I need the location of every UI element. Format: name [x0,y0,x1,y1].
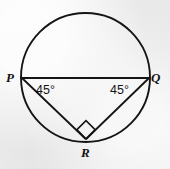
vertex-label-q: Q [151,71,160,84]
angle-measure-label-q: 45° [110,84,129,97]
geometry-figure: P Q R 45° 45° [0,0,170,169]
vertex-label-p: P [6,71,14,84]
right-angle-square-icon [77,121,95,139]
right-angle-marker-group [77,121,95,139]
vertex-label-r: R [81,146,90,159]
geometry-canvas [0,0,170,169]
angle-measure-label-p: 45° [36,84,55,97]
